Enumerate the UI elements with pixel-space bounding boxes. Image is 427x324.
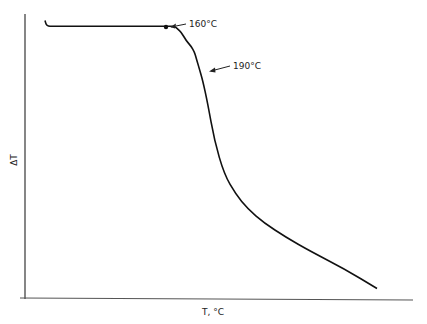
annotation-160-label: 160°C	[189, 19, 217, 29]
dta-chart: 160°C 190°C ΔT T, °C	[0, 0, 427, 324]
dta-curve	[45, 21, 377, 289]
y-axis-label: ΔT	[9, 154, 19, 166]
annotation-190-label: 190°C	[233, 61, 261, 71]
annotation-190: 190°C	[209, 61, 261, 73]
x-axis	[20, 298, 413, 300]
x-axis-label: T, °C	[201, 307, 224, 317]
onset-point-marker	[164, 25, 168, 29]
arrow-190-head	[209, 68, 216, 73]
